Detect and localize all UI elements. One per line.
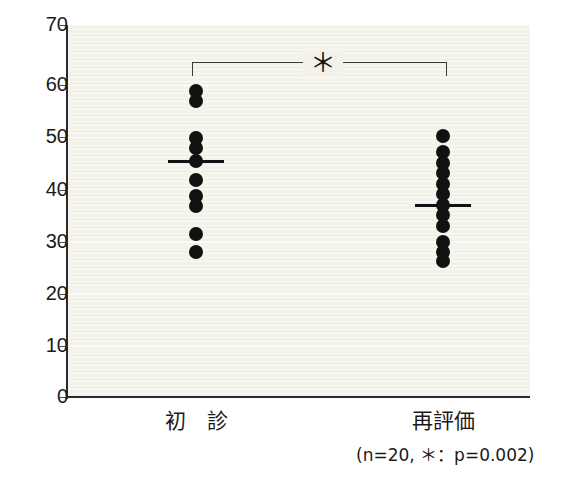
y-tick-label: 40 [24,179,68,199]
data-point [189,227,203,241]
data-point [189,245,203,259]
gridline [68,85,530,86]
y-tick-label: 60 [24,74,68,94]
gridline [68,294,530,295]
data-point [436,219,450,233]
y-tick-label: 70 [24,14,68,34]
data-point [189,141,203,155]
y-tick-label: 50 [24,126,68,146]
x-axis-label-left: 初 診 [126,404,266,434]
significance-asterisk: ＊ [303,50,343,76]
y-tick-label: 20 [24,283,68,303]
chart-caption: (n=20, ＊：p=0.002) [356,441,534,466]
x-axis-label-right: 再評価 [373,404,513,434]
data-point [189,94,203,108]
data-point [436,254,450,268]
gridline [68,346,530,347]
y-tick-label: 30 [24,231,68,251]
gridline [68,189,530,190]
plot-area [68,25,530,398]
gridline [68,242,530,243]
y-tick-label: 10 [24,335,68,355]
data-point [189,199,203,213]
y-tick-label: 0 [24,386,68,406]
data-point [436,129,450,143]
median-line-left [168,160,224,163]
median-line-right [415,204,471,207]
dot-plot-figure: 70 60 50 40 30 20 10 0 ＊ [0,0,564,484]
data-point [189,173,203,187]
x-axis-line [66,396,530,398]
gridline [68,137,530,138]
